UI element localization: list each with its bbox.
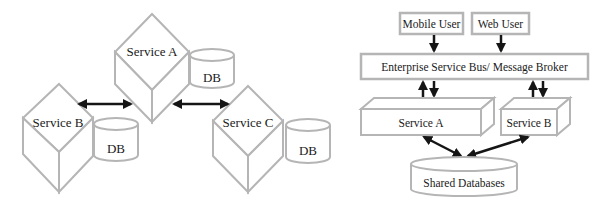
service-c-label: Service C — [223, 115, 274, 130]
service-c-db-label: DB — [299, 143, 317, 158]
soa-service-a-label: Service A — [398, 117, 444, 129]
architecture-comparison-diagram: Service A DB Service B DB Service C — [0, 0, 590, 214]
mobile-user-node: Mobile User — [400, 13, 463, 34]
service-b-label: Service B — [33, 115, 84, 130]
web-user-node: Web User — [472, 13, 529, 34]
service-c-node: Service C — [213, 86, 283, 192]
soa-diagram: Mobile User Web User Enterprise Service … — [361, 13, 588, 196]
microservices-diagram: Service A DB Service B DB Service C — [23, 14, 330, 192]
service-b-db-label: DB — [107, 141, 125, 156]
mobile-user-label: Mobile User — [403, 18, 461, 30]
soa-service-a-node: Service A — [361, 98, 494, 135]
enterprise-service-bus-label: Enterprise Service Bus/ Message Broker — [381, 61, 568, 74]
enterprise-service-bus-node: Enterprise Service Bus/ Message Broker — [361, 54, 588, 79]
service-a-label: Service A — [127, 44, 179, 59]
shared-databases-label: Shared Databases — [423, 177, 505, 189]
arrow-service-b-to-shared-db — [468, 137, 528, 156]
shared-databases-node: Shared Databases — [411, 157, 517, 196]
soa-service-b-node: Service B — [501, 98, 570, 135]
soa-service-b-label: Service B — [506, 117, 551, 129]
service-c-db: DB — [286, 119, 330, 163]
service-b-db: DB — [94, 118, 138, 161]
web-user-label: Web User — [478, 18, 524, 30]
service-b-node: Service B — [23, 84, 93, 192]
service-a-node: Service A — [115, 14, 189, 122]
arrow-service-a-to-shared-db — [424, 137, 461, 156]
service-a-db: DB — [190, 49, 234, 88]
service-a-db-label: DB — [203, 70, 221, 85]
